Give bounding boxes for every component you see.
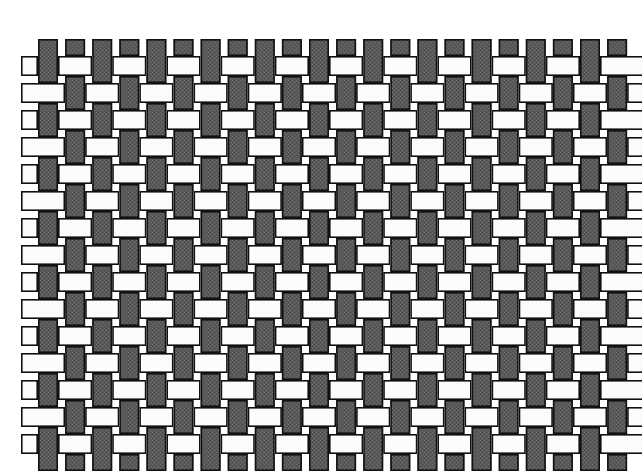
basketweave-canvas: [0, 0, 642, 476]
basketweave-figure: [0, 0, 642, 476]
